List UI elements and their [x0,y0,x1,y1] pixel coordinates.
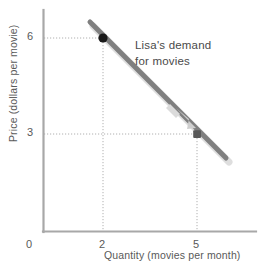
x-axis-title: Quantity (movies per month) [104,250,241,261]
y-tick-label-3: 3 [27,127,33,138]
y-tick-label-6: 6 [27,31,33,42]
data-point-5-3 [193,130,201,138]
y-axis-title: Price (dollars per movie) [8,8,19,158]
chart-canvas [0,0,261,265]
x-tick-label-0: 0 [26,239,32,250]
demand-curve-figure: 6 3 0 2 5 Quantity (movies per month) Pr… [0,0,261,265]
y-axis-title-wrapper: Price (dollars per movie) [0,0,20,170]
demand-curve-label-line2: for movies [135,55,190,67]
data-point-2-6 [98,33,107,42]
demand-curve-label-line1: Lisa's demand [135,39,211,51]
demand-curve-label: Lisa's demand for movies [135,38,219,69]
